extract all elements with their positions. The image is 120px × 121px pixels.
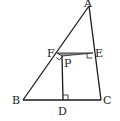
- label-d: D: [58, 105, 67, 118]
- label-c: C: [103, 94, 111, 107]
- segment-pd: [62, 56, 63, 100]
- shaded-triangle-fpe: [57, 53, 93, 56]
- label-e: E: [95, 47, 103, 60]
- label-a: A: [83, 0, 93, 10]
- geometry-diagram: A B C D E F P: [0, 0, 120, 121]
- label-f: F: [47, 47, 55, 60]
- label-b: B: [12, 94, 20, 107]
- right-angle-mark-d: [63, 95, 68, 100]
- label-p: P: [64, 57, 72, 70]
